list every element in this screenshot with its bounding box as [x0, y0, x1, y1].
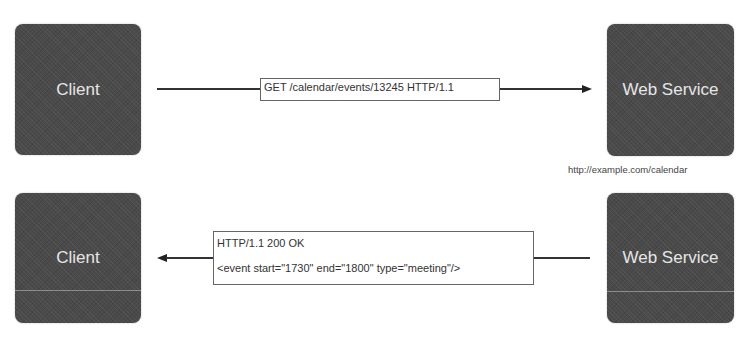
- node-divider: [15, 290, 141, 291]
- client-node-response: Client: [15, 193, 141, 323]
- service-url: http://example.com/calendar: [568, 164, 687, 175]
- web-service-label: Web Service: [622, 248, 718, 268]
- response-message-box: HTTP/1.1 200 OK <event start="1730" end=…: [213, 231, 534, 285]
- web-service-node-request: Web Service: [607, 24, 734, 156]
- request-message-box: GET /calendar/events/13245 HTTP/1.1: [260, 78, 500, 101]
- arrow-right-icon: [582, 85, 592, 93]
- response-connector-right: [534, 257, 590, 259]
- response-status-line: HTTP/1.1 200 OK: [217, 237, 530, 250]
- web-service-label: Web Service: [622, 80, 718, 100]
- request-line: GET /calendar/events/13245 HTTP/1.1: [264, 81, 496, 94]
- client-label: Client: [56, 248, 99, 268]
- web-service-node-response: Web Service: [607, 193, 734, 323]
- response-body-line: <event start="1730" end="1800" type="mee…: [217, 262, 530, 275]
- request-connector-right: [500, 88, 582, 90]
- response-connector-left: [166, 257, 213, 259]
- node-divider: [607, 291, 734, 292]
- request-connector-left: [157, 88, 260, 90]
- client-node-request: Client: [15, 24, 141, 155]
- client-label: Client: [56, 80, 99, 100]
